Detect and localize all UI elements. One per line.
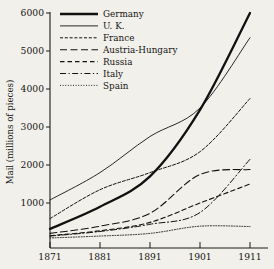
x-tick-label-1871: 1871 [38, 251, 61, 262]
y-axis: 100020003000400050006000 [21, 7, 50, 248]
y-tick-label-6000: 6000 [21, 7, 45, 18]
chart-canvas: 100020003000400050006000 187118811891190… [0, 0, 274, 269]
x-tick-label-1881: 1881 [88, 251, 111, 262]
x-tick-label-1911: 1911 [238, 251, 261, 262]
y-tick-label-4000: 4000 [21, 83, 45, 94]
y-tick-label-3000: 3000 [21, 121, 45, 132]
y-axis-label: Mail (millions of pieces) [5, 80, 15, 185]
series-line-france [50, 99, 250, 219]
legend-label-germany: Germany [103, 9, 144, 19]
x-tick-label-1901: 1901 [188, 251, 211, 262]
mail-volume-line-chart: 100020003000400050006000 187118811891190… [0, 0, 274, 269]
y-tick-label-1000: 1000 [21, 197, 45, 208]
chart-legend: GermanyU. K.FranceAustria-HungaryRussiaI… [60, 9, 177, 90]
x-tick-label-1891: 1891 [138, 251, 161, 262]
legend-label-russia: Russia [103, 57, 132, 67]
series-line-spain [50, 226, 250, 238]
series-line-russia [50, 184, 250, 236]
y-tick-label-5000: 5000 [21, 45, 45, 56]
legend-label-france: France [103, 33, 134, 43]
legend-label-austria-hungary: Austria-Hungary [102, 45, 177, 55]
legend-label-italy: Italy [103, 69, 123, 79]
y-tick-label-2000: 2000 [21, 159, 45, 170]
legend-label-u-k-: U. K. [103, 21, 125, 31]
series-line-italy [50, 159, 250, 236]
x-axis: 18711881189119011911 [38, 242, 268, 262]
legend-label-spain: Spain [103, 81, 129, 91]
